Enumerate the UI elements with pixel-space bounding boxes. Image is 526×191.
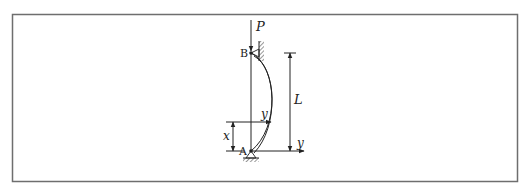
position-label: x (223, 129, 230, 143)
figure-frame (13, 15, 518, 182)
top-pin-label: B (240, 47, 248, 60)
buckled-column (251, 53, 272, 153)
load-label: P (255, 19, 265, 34)
axis-y-label: y (296, 136, 304, 150)
diagram-canvas: P B A y L (0, 0, 526, 191)
deflection-label: y (260, 107, 268, 121)
length-label: L (293, 92, 303, 107)
